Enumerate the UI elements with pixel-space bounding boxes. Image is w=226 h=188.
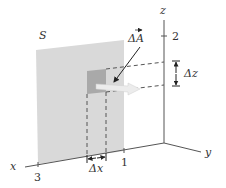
z-tick-label: 2 xyxy=(172,30,179,43)
delta-x-arrow-right xyxy=(97,157,105,158)
y-axis-label: y xyxy=(204,146,212,159)
delta-x-label: Δx xyxy=(88,162,104,175)
x-axis-label: x xyxy=(10,160,17,173)
x-tick-label-1: 1 xyxy=(121,156,128,169)
area-patch xyxy=(87,69,106,94)
y-axis xyxy=(164,143,201,152)
surface-s xyxy=(36,40,124,164)
z-axis-label: z xyxy=(159,4,166,17)
surface-area-vector-diagram: S ΔA z y x 2 3 1 Δz Δx xyxy=(0,0,226,188)
surface-label: S xyxy=(39,29,47,42)
area-vector-label: ΔA xyxy=(127,32,144,45)
delta-z-label: Δz xyxy=(183,67,198,80)
x-tick-label-3: 3 xyxy=(34,171,41,184)
delta-x-arrow-left xyxy=(88,158,96,159)
